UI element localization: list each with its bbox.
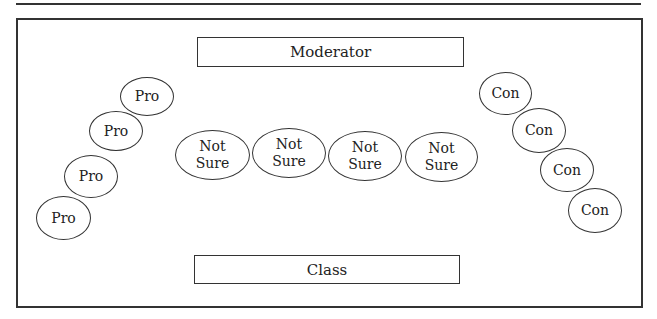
pro-seat: Pro (36, 196, 91, 240)
seat-label: Con (553, 162, 581, 179)
pro-seat: Pro (89, 111, 143, 151)
class-label: Class (307, 261, 348, 279)
pro-seat: Pro (120, 77, 174, 116)
not-sure-seat: NotSure (175, 130, 250, 180)
seat-label: Pro (135, 88, 160, 105)
seat-label: NotSure (272, 136, 306, 170)
not-sure-seat: NotSure (252, 128, 326, 178)
not-sure-seat: NotSure (405, 132, 478, 182)
con-seat: Con (479, 72, 532, 115)
seat-label: NotSure (348, 139, 382, 173)
seat-label: NotSure (196, 138, 230, 172)
class-box: Class (194, 255, 460, 284)
moderator-box: Moderator (197, 37, 464, 67)
con-seat: Con (512, 108, 566, 153)
seat-label: Pro (51, 210, 76, 227)
seat-label: NotSure (425, 140, 459, 174)
con-seat: Con (540, 148, 594, 192)
seat-label: Con (581, 202, 609, 219)
not-sure-seat: NotSure (328, 131, 402, 181)
seat-label: Con (491, 85, 519, 102)
con-seat: Con (568, 188, 622, 233)
seat-label: Pro (104, 123, 129, 140)
pro-seat: Pro (64, 155, 118, 198)
seat-label: Con (525, 122, 553, 139)
seat-label: Pro (79, 168, 104, 185)
top-rule (16, 3, 641, 5)
moderator-label: Moderator (290, 43, 371, 61)
